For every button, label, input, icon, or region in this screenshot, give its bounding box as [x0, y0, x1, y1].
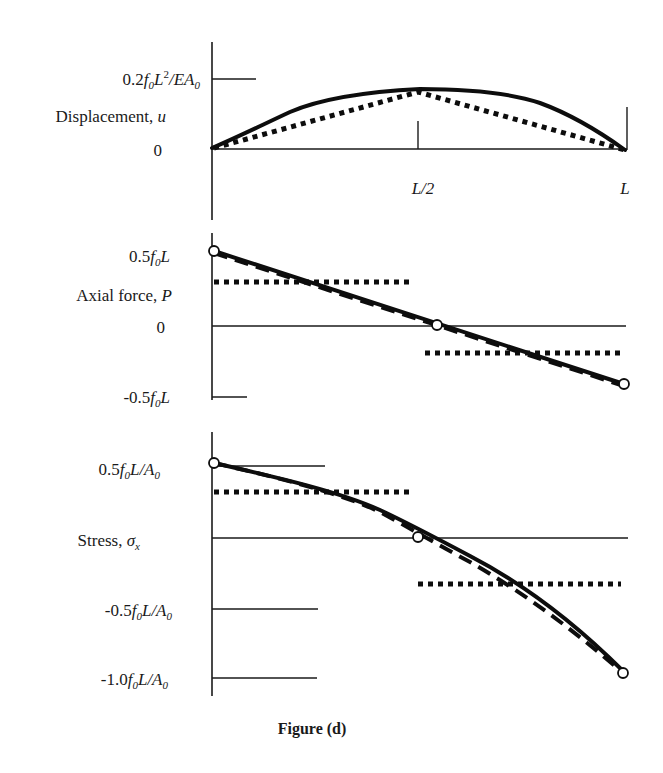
- stress-panel: 0.5f0L/A0 Stress, σx -0.5f0L/A0 -1.0f0L/…: [78, 432, 628, 696]
- axial-tick-top-label: 0.5f0L: [129, 247, 170, 268]
- stress-node-end: [618, 668, 628, 678]
- axial-node-start: [209, 246, 219, 256]
- axial-y-label: Axial force, P: [76, 286, 172, 305]
- axial-exact-line: [214, 251, 624, 384]
- displacement-panel: 0.2f0L2/EA0 Displacement, u 0 L/2 L: [56, 42, 630, 220]
- figure-caption: Figure (d): [278, 720, 347, 738]
- stress-tick-top-label: 0.5f0L/A0: [98, 460, 160, 481]
- axial-tick-bottom-label: -0.5f0L: [123, 388, 170, 409]
- stress-tick-bottom-label: -1.0f0L/A0: [101, 670, 169, 691]
- displacement-tick-zero-label: 0: [154, 141, 163, 160]
- axial-tick-zero-label: 0: [157, 318, 166, 337]
- axial-force-panel: 0.5f0L Axial force, P 0 -0.5f0L: [76, 233, 629, 409]
- x-tick-label-end: L: [619, 179, 629, 198]
- axial-node-end: [619, 379, 629, 389]
- axial-node-mid: [432, 320, 442, 330]
- displacement-tick-top-label: 0.2f0L2/EA0: [123, 68, 201, 91]
- displacement-y-label: Displacement, u: [56, 107, 166, 126]
- displacement-linear-fe-curve: [214, 92, 625, 150]
- x-tick-label-half: L/2: [411, 179, 435, 198]
- stress-y-label: Stress, σx: [78, 531, 141, 552]
- stress-node-mid: [413, 532, 423, 542]
- stress-node-start: [209, 458, 219, 468]
- figure-d: 0.2f0L2/EA0 Displacement, u 0 L/2 L 0.5f…: [0, 0, 663, 773]
- stress-tick-mid-label: -0.5f0L/A0: [105, 601, 173, 622]
